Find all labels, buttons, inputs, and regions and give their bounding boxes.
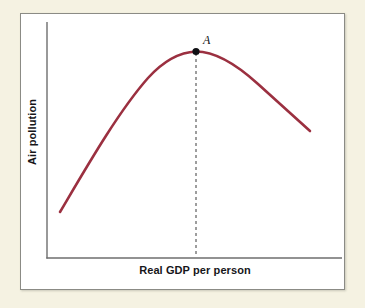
x-axis-label: Real GDP per person: [47, 264, 343, 276]
chart-panel: [20, 13, 345, 290]
point-a-label: A: [203, 33, 210, 48]
y-axis-label: Air pollution: [26, 42, 38, 222]
figure-root: A Air pollution Real GDP per person: [0, 0, 365, 308]
